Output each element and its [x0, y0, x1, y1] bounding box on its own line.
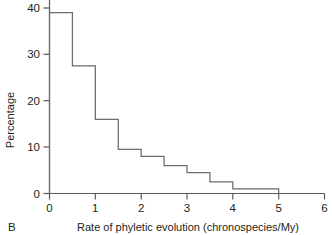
panel-label-b: B: [8, 221, 16, 233]
x-tick-label-6: 6: [321, 202, 327, 214]
x-tick-label-2: 2: [138, 202, 144, 214]
figure-panel-b: 0 10 20 30 40 0 1 2 3 4 5 6: [0, 0, 332, 235]
histogram-step-outline: [50, 13, 279, 194]
y-tick-label-20: 20: [27, 95, 40, 107]
y-tick-label-30: 30: [27, 48, 40, 60]
y-tick-label-10: 10: [27, 141, 40, 153]
x-axis-ticks: [50, 194, 325, 200]
y-axis-tick-labels: 0 10 20 30 40: [27, 2, 40, 200]
x-tick-label-0: 0: [46, 202, 52, 214]
x-axis-title: Rate of phyletic evolution (chronospecie…: [77, 221, 299, 233]
x-tick-label-5: 5: [275, 202, 281, 214]
x-tick-label-1: 1: [92, 202, 98, 214]
y-tick-label-0: 0: [34, 188, 40, 200]
y-axis-ticks: [44, 8, 50, 194]
histogram-chart: 0 10 20 30 40 0 1 2 3 4 5 6: [0, 0, 332, 235]
y-axis-title: Percentage: [4, 92, 16, 148]
x-tick-label-3: 3: [184, 202, 190, 214]
x-axis-tick-labels: 0 1 2 3 4 5 6: [46, 202, 327, 214]
x-tick-label-4: 4: [230, 202, 237, 214]
y-tick-label-40: 40: [27, 2, 40, 14]
